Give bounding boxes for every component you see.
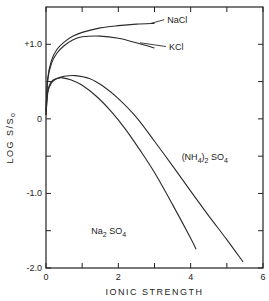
chart: 0246+1.00-1.0-2.0 NaClKCl(NH4)2 SO4Na2 S…: [0, 0, 269, 301]
x-tick-label: 4: [188, 272, 193, 282]
label-part: SO: [208, 152, 224, 162]
y-axis-title: LOG S/So: [5, 112, 16, 164]
series-labels: NaClKCl(NH4)2 SO4Na2 SO4: [91, 15, 228, 239]
label-part: NaCl: [167, 15, 187, 25]
x-axis-title: IONIC STRENGTH: [105, 287, 203, 297]
y-axis-title-sub: o: [9, 112, 16, 117]
curve-nh4-2so4: [46, 75, 243, 262]
y-tick-label: +1.0: [24, 39, 42, 49]
ticks: [46, 7, 263, 268]
leader-nacl: [151, 20, 164, 24]
series-label-nh4-2so4: (NH4)2 SO4: [182, 152, 228, 164]
label-part: 4: [224, 157, 228, 164]
tick-labels: 0246+1.00-1.0-2.0: [24, 39, 265, 282]
series-label-na2so4: Na2 SO4: [91, 226, 126, 238]
y-axis-title-main: LOG S/S: [5, 117, 15, 164]
label-part: 4: [122, 231, 126, 238]
curve-na2so4: [46, 78, 196, 250]
plot-frame: [46, 7, 263, 268]
x-tick-label: 0: [43, 272, 48, 282]
label-part: (NH: [182, 152, 198, 162]
label-part: Na: [91, 226, 103, 236]
y-tick-label: -1.0: [26, 188, 42, 198]
x-tick-label: 6: [260, 272, 265, 282]
curves: [46, 23, 243, 262]
axes: [46, 7, 263, 268]
y-tick-label: -2.0: [26, 263, 42, 273]
series-label-kcl: KCl: [169, 42, 184, 52]
label-part: SO: [107, 226, 123, 236]
y-tick-label: 0: [37, 114, 42, 124]
label-part: KCl: [169, 42, 184, 52]
series-label-nacl: NaCl: [167, 15, 187, 25]
x-tick-label: 2: [116, 272, 121, 282]
